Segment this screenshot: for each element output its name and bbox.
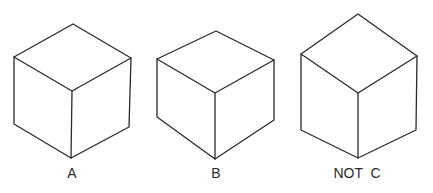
cube-c: NOT C — [301, 14, 417, 181]
cube-a-inner-edges — [14, 57, 131, 91]
cube-b: B — [157, 31, 274, 181]
cube-a: A — [14, 24, 131, 181]
cube-a-label: A — [67, 165, 77, 181]
cube-comparison-diagram: A B NOT C — [0, 0, 433, 193]
cube-c-inner-edges — [301, 54, 417, 93]
cube-c-outline — [301, 14, 417, 158]
cube-a-front-edge — [71, 91, 72, 158]
cube-b-label: B — [211, 165, 220, 181]
cube-c-label: NOT C — [333, 165, 380, 181]
cube-b-inner-edges — [157, 59, 274, 93]
